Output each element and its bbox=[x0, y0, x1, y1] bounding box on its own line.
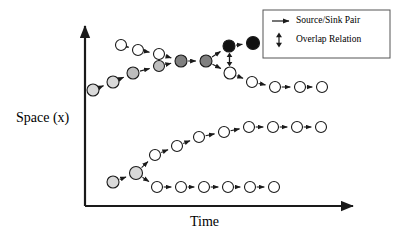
graph-node bbox=[268, 122, 279, 133]
source-sink-edge bbox=[161, 150, 168, 153]
graph-node bbox=[133, 45, 144, 56]
source-sink-edge bbox=[231, 129, 240, 131]
graph-node bbox=[87, 84, 99, 96]
source-sink-edge bbox=[120, 177, 126, 179]
source-sink-edge bbox=[206, 134, 215, 136]
source-sink-edge bbox=[142, 162, 148, 168]
graph-node bbox=[317, 82, 328, 93]
graph-node bbox=[270, 82, 281, 93]
graph-node bbox=[130, 167, 143, 180]
graph-node bbox=[107, 176, 119, 188]
source-sink-edge bbox=[120, 77, 124, 79]
legend-label-source-sink-pair: Source/Sink Pair bbox=[296, 15, 360, 25]
graph-node bbox=[194, 132, 205, 143]
source-sink-edge bbox=[212, 64, 220, 68]
graph-node bbox=[127, 67, 139, 79]
graph-node bbox=[199, 182, 210, 193]
source-sink-edge bbox=[259, 83, 266, 85]
graph-node bbox=[154, 61, 165, 72]
graph-node bbox=[150, 150, 161, 161]
source-sink-edge bbox=[212, 52, 220, 57]
graph-node bbox=[152, 182, 163, 193]
graph-node bbox=[247, 37, 260, 50]
graph-node bbox=[107, 76, 119, 88]
graph-node bbox=[245, 182, 256, 193]
graph-node bbox=[175, 55, 187, 67]
graph-node bbox=[154, 49, 165, 60]
source-sink-edge bbox=[183, 141, 190, 144]
source-sink-edge bbox=[145, 51, 150, 52]
graph-node bbox=[295, 82, 306, 93]
graph-node bbox=[223, 182, 234, 193]
legend-label-overlap-relation: Overlap Relation bbox=[296, 34, 361, 44]
graph-node bbox=[172, 141, 183, 152]
graph-node bbox=[292, 122, 303, 133]
y-axis-label: Space (x) bbox=[16, 110, 69, 126]
graph-node bbox=[116, 40, 127, 51]
graph-node bbox=[244, 122, 255, 133]
source-sink-edge bbox=[237, 76, 243, 79]
graph-node bbox=[176, 182, 187, 193]
source-sink-edge bbox=[165, 56, 171, 58]
figure-canvas: Space (x) Time Source/Sink Pair Overlap … bbox=[0, 0, 394, 243]
nodes-layer bbox=[87, 37, 328, 193]
graph-node bbox=[316, 122, 327, 133]
source-sink-edge bbox=[166, 63, 172, 64]
graph-node bbox=[224, 67, 236, 79]
x-axis-label: Time bbox=[190, 214, 219, 230]
graph-node bbox=[219, 127, 230, 138]
graph-node bbox=[269, 182, 280, 193]
graph-node bbox=[200, 55, 212, 67]
graph-node bbox=[223, 40, 235, 52]
graph-node bbox=[247, 77, 258, 88]
overlap-relation-arrow bbox=[227, 53, 233, 67]
source-sink-edge bbox=[100, 86, 104, 88]
source-sink-edge bbox=[140, 69, 150, 72]
source-sink-edge bbox=[236, 44, 242, 45]
source-sink-edge bbox=[142, 177, 149, 181]
